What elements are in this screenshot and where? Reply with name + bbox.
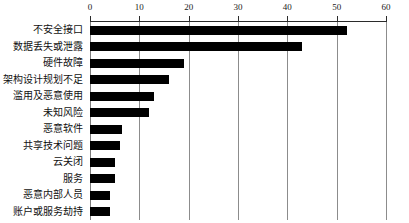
y-axis-category-label: 架构设计规划不足 — [3, 74, 83, 86]
bar-row — [90, 105, 386, 122]
x-axis-tick-label: 0 — [88, 1, 93, 13]
bar-row — [90, 187, 386, 204]
y-axis-category-label: 硬件故障 — [43, 57, 83, 69]
y-axis-category-label: 恶意内部人员 — [23, 189, 83, 201]
x-axis-tick-label: 10 — [135, 1, 144, 13]
bar — [90, 125, 122, 134]
y-axis-category-label-group: 不安全接口数据丢失或泄露硬件故障架构设计规划不足滥用及恶意使用未知风险恶意软件共… — [0, 22, 87, 220]
x-axis-tick-label: 60 — [382, 1, 391, 13]
y-axis-category-label: 服务 — [63, 173, 83, 185]
bar — [90, 191, 110, 200]
bar-row — [90, 154, 386, 171]
bar-row — [90, 138, 386, 155]
y-axis-category-label: 账户或服务劫持 — [13, 206, 83, 218]
y-axis-category-label: 数据丢失或泄露 — [13, 41, 83, 53]
bar — [90, 207, 110, 216]
bar-row — [90, 39, 386, 56]
bar — [90, 141, 120, 150]
y-axis-category-label: 未知风险 — [43, 107, 83, 119]
bar-row — [90, 72, 386, 89]
y-axis-category-label: 云关闭 — [53, 156, 83, 168]
y-axis-category-label: 共享技术问题 — [23, 140, 83, 152]
bar — [90, 42, 302, 51]
bar-row — [90, 171, 386, 188]
bar — [90, 174, 115, 183]
bar — [90, 26, 347, 35]
bar-chart: 0102030405060 不安全接口数据丢失或泄露硬件故障架构设计规划不足滥用… — [0, 0, 409, 223]
x-axis-tick-label: 30 — [234, 1, 243, 13]
bar-row — [90, 55, 386, 72]
bar — [90, 92, 154, 101]
bar — [90, 108, 149, 117]
bar-row — [90, 22, 386, 39]
bar-series — [90, 22, 386, 220]
y-axis-category-label: 恶意软件 — [43, 123, 83, 135]
x-axis-tick-label: 50 — [332, 1, 341, 13]
y-axis-category-label: 滥用及恶意使用 — [13, 90, 83, 102]
bar-row — [90, 204, 386, 221]
bar-row — [90, 88, 386, 105]
x-axis-tick-label: 40 — [283, 1, 292, 13]
x-axis-tick-label: 20 — [184, 1, 193, 13]
bar-row — [90, 121, 386, 138]
gridline — [386, 22, 387, 220]
y-axis-category-label: 不安全接口 — [33, 24, 83, 36]
x-axis-tick-label-group: 0102030405060 — [0, 0, 409, 16]
bar — [90, 158, 115, 167]
bar — [90, 59, 184, 68]
bar — [90, 75, 169, 84]
